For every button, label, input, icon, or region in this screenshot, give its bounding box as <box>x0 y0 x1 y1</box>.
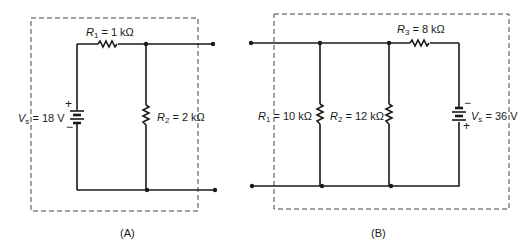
circuit-a-terminal-top <box>211 42 215 46</box>
circuit-diagram <box>0 0 530 250</box>
circuit-a-r2-label: R2 = 2 kΩ <box>157 111 205 123</box>
circuit-a-r1-label: R1 = 1 kΩ <box>86 26 134 38</box>
circuit-a-junction-top <box>144 42 148 46</box>
circuit-b-source-label: Vs = 36 V <box>471 110 518 122</box>
circuit-a-source-label: Vs = 18 V <box>18 112 65 124</box>
circuit-a-r2-resistor-icon <box>143 105 149 125</box>
circuit-b-terminal-top <box>249 41 253 45</box>
circuit-b-r1-label: R1 = 10 kΩ <box>258 110 312 122</box>
circuit-a-r1-resistor-icon <box>98 41 117 47</box>
circuit-a-junction-bottom <box>145 188 149 192</box>
circuit-b-r2-label: R2 = 12 kΩ <box>330 110 384 122</box>
circuit-b-junction-r1-bottom <box>320 184 324 188</box>
circuit-b-r3-resistor-icon <box>410 40 429 46</box>
circuit-b-junction-r1-top <box>318 41 322 45</box>
circuit-b-junction-r2-bottom <box>389 184 393 188</box>
circuit-b-minus-sign: − <box>464 97 471 109</box>
circuit-b-junction-r2-top <box>387 41 391 45</box>
circuit-b-bottom-wire <box>252 185 459 186</box>
circuit-b-caption: (B) <box>371 227 386 239</box>
circuit-a-caption: (A) <box>120 227 135 239</box>
circuit-b-r1-resistor-icon <box>317 104 323 124</box>
circuit-a-minus-sign: − <box>66 121 73 133</box>
circuit-a-terminal-bottom <box>213 188 217 192</box>
circuit-b-r2-resistor-icon <box>386 104 392 124</box>
circuit-b-plus-sign: + <box>463 120 470 132</box>
circuit-b-terminal-bottom <box>250 184 254 188</box>
circuit-a-plus-sign: + <box>65 98 72 110</box>
circuit-b-r3-label: R3 = 8 kΩ <box>397 23 445 35</box>
